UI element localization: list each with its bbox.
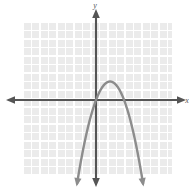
parabola-right-arrow-icon bbox=[139, 178, 146, 187]
x-axis-left-arrow-icon bbox=[6, 96, 15, 104]
parabola-left-arrow-icon bbox=[74, 178, 81, 187]
graph-figure: y x bbox=[0, 0, 189, 191]
coordinate-plane-graph: y x bbox=[0, 0, 189, 191]
x-axis-label: x bbox=[184, 96, 189, 105]
y-axis-up-arrow-icon bbox=[92, 9, 100, 18]
y-axis-label: y bbox=[92, 1, 97, 10]
y-axis-down-arrow-icon bbox=[92, 178, 100, 187]
